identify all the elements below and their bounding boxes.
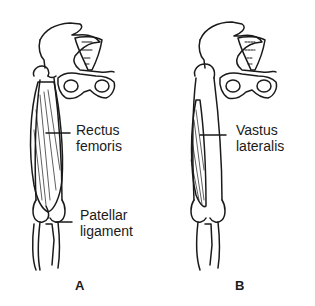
label-patellar-ligament-line2: ligament xyxy=(80,223,133,239)
label-patellar-ligament-line1: Patellar xyxy=(80,207,133,223)
label-vastus-lateralis-line1: Vastus xyxy=(236,122,284,138)
label-rectus-femoris-line2: femoris xyxy=(76,138,122,154)
label-rectus-femoris: Rectus femoris xyxy=(76,122,122,154)
label-vastus-lateralis-line2: lateralis xyxy=(236,138,284,154)
label-patellar-ligament: Patellar ligament xyxy=(80,207,133,239)
panel-letter-b: B xyxy=(235,278,244,293)
label-vastus-lateralis: Vastus lateralis xyxy=(236,122,284,154)
panel-letter-a: A xyxy=(75,278,84,293)
label-rectus-femoris-line1: Rectus xyxy=(76,122,122,138)
